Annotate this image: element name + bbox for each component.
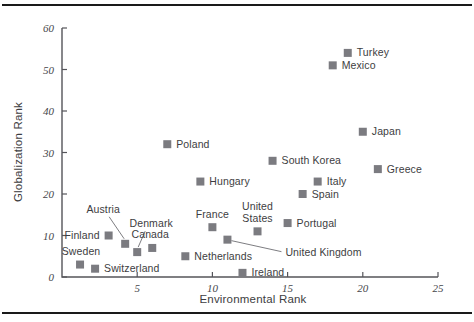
data-point-marker: [269, 157, 277, 165]
data-point-marker: [238, 269, 246, 277]
y-tick-label: 10: [43, 230, 55, 242]
data-point-label: Finland: [64, 229, 99, 241]
data-point-label: Canada: [132, 228, 169, 240]
x-tick-label: 20: [357, 282, 369, 294]
data-point-label: UnitedStates: [242, 200, 273, 224]
scatter-plot-figure: 0102030405060510152025 SwedenSwitzerland…: [0, 0, 474, 322]
x-tick-label: 25: [433, 282, 445, 294]
data-point-marker: [314, 178, 322, 186]
data-point-marker: [223, 236, 231, 244]
data-point-label: Switzerland: [104, 262, 159, 274]
data-point-marker: [133, 248, 141, 256]
data-point-marker: [374, 165, 382, 173]
data-point-label: Portugal: [297, 217, 337, 229]
data-point-marker: [163, 140, 171, 148]
data-point-marker: [344, 49, 352, 57]
y-tick-label: 60: [43, 22, 55, 34]
data-point-label: United Kingdom: [285, 246, 361, 258]
y-tick-label: 30: [42, 147, 55, 159]
y-tick-label: 0: [49, 271, 55, 283]
data-point-label: Turkey: [357, 46, 390, 58]
data-points-group: SwedenSwitzerlandFinlandAustriaDenmarkCa…: [62, 46, 422, 278]
data-point-marker: [196, 178, 204, 186]
axes-group: [62, 28, 438, 277]
data-point-label: Italy: [327, 175, 347, 187]
data-point-label: Mexico: [342, 59, 376, 71]
data-point-marker: [359, 128, 367, 136]
data-point-marker: [76, 261, 84, 269]
x-axis-title: Environmental Rank: [199, 293, 306, 305]
data-point-label: Sweden: [62, 245, 101, 257]
data-point-label: Netherlands: [194, 250, 252, 262]
data-point-marker: [284, 219, 292, 227]
data-point-label: France: [196, 208, 229, 220]
data-point-label: Greece: [387, 163, 422, 175]
data-point-marker: [121, 240, 129, 248]
data-point-label: South Korea: [282, 154, 342, 166]
data-point-label: Poland: [176, 138, 209, 150]
data-point-marker: [181, 252, 189, 260]
data-point-marker: [208, 223, 216, 231]
data-point-marker: [148, 244, 156, 252]
data-point-marker: [254, 227, 262, 235]
data-point-label: Japan: [372, 125, 401, 137]
x-tick-label: 5: [134, 282, 140, 294]
data-point-label: Hungary: [209, 175, 250, 187]
y-tick-label: 40: [43, 105, 55, 117]
axis-spine: [62, 28, 438, 277]
data-point-marker: [105, 232, 113, 240]
plot-canvas: 0102030405060510152025 SwedenSwitzerland…: [0, 0, 474, 322]
y-axis-title: Globalization Rank: [12, 102, 24, 202]
y-tick-label: 50: [43, 64, 55, 76]
data-point-label: Austria: [86, 203, 119, 215]
y-tick-label: 20: [43, 188, 55, 200]
data-point-marker: [329, 61, 337, 69]
data-point-label: Ireland: [251, 266, 284, 278]
data-point-marker: [299, 190, 307, 198]
data-point-label: Spain: [312, 188, 339, 200]
data-point-marker: [91, 265, 99, 273]
